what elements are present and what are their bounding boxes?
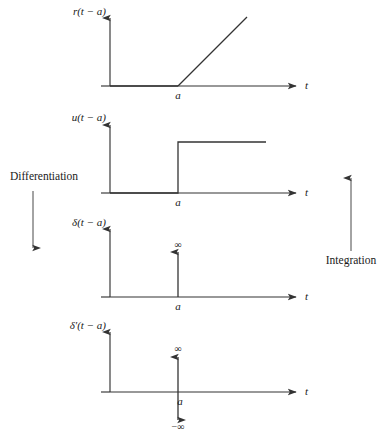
doublet-infinity-label: ∞ bbox=[174, 344, 181, 354]
step-function-label: u(t − a) bbox=[72, 112, 106, 123]
ramp-tick-label-a: a bbox=[175, 90, 181, 101]
differentiation-label: Differentiation bbox=[10, 171, 78, 183]
step-tick-label-a: a bbox=[175, 197, 181, 208]
panel-impulse-axes bbox=[101, 229, 296, 297]
panel-ramp-curve bbox=[110, 17, 247, 86]
impulse-tick-label-a: a bbox=[175, 301, 181, 312]
impulse-infinity-label: ∞ bbox=[174, 240, 181, 250]
step-axis-variable-label: t bbox=[305, 187, 308, 198]
ramp-rising-segment bbox=[178, 17, 247, 86]
impulse-function-label: δ(t − a) bbox=[72, 217, 106, 228]
doublet-negative-infinity-label: −∞ bbox=[172, 422, 185, 432]
impulse-axis-variable-label: t bbox=[305, 291, 308, 302]
panel-step-axes bbox=[101, 125, 296, 193]
panel-step-curve bbox=[110, 142, 266, 193]
unit-step-waveform bbox=[110, 142, 266, 193]
ramp-function-label: r(t − a) bbox=[73, 6, 106, 17]
doublet-function-label: δ′(t − a) bbox=[70, 320, 106, 331]
doublet-axis-variable-label: t bbox=[305, 386, 308, 397]
ramp-axis-variable-label: t bbox=[305, 80, 308, 91]
signal-family-figure bbox=[0, 0, 384, 438]
panel-doublet-axes bbox=[101, 332, 296, 392]
integration-label: Integration bbox=[326, 255, 376, 267]
doublet-tick-label-a: a bbox=[177, 396, 183, 407]
panel-ramp-axes bbox=[101, 18, 296, 86]
figure-container: r(t − a) t a u(t − a) t a δ(t − a) t a ∞… bbox=[0, 0, 384, 438]
